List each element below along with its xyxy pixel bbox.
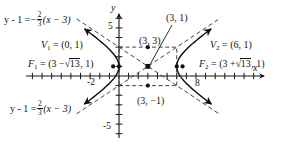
focus-left-prefix: = (3 − [40,58,65,69]
x-tick-label-neg2: -2 [87,78,95,88]
focus-right-radicand: 13 [240,58,251,69]
asymptote-lower-lhs: y - 1 = [10,103,36,114]
point-focus-right [180,64,184,68]
vertex-right-value: = (6, 1) [222,39,252,50]
point-center [145,64,150,69]
asymptote-upper-lhs: y - 1 = [4,14,30,25]
focus-left-label: F1 = (3 −√13, 1) [28,58,94,71]
asymptote-label-lower-left: y - 1 =23(x − 3) [10,100,71,116]
focus-left-radical: √13 [65,58,81,69]
vertex-right-label: V2 = (6, 1) [210,40,252,52]
focus-right-radical: √13 [236,58,252,69]
x-tick-label-8: 8 [195,79,200,89]
asymptote-upper-rhs: (x − 3) [43,14,71,25]
point-vertex-right [175,64,179,68]
focus-left-suffix: , 1) [80,58,93,69]
vertex-left-subscript: 1 [47,44,51,52]
x-axis-label: x [253,63,257,73]
y-axis-label: y [111,3,115,13]
y-tick-label-neg5: -5 [103,122,111,132]
vertex-left-label: V1 = (0, 1) [41,40,83,52]
asymptote-lower-numerator: 2 [37,100,43,108]
focus-right-prefix: = (3 + [211,58,236,69]
focus-left-radicand: 13 [69,58,80,69]
asymptote-upper-numerator: 2 [37,11,43,19]
focus-left-subscript: 1 [34,63,38,71]
asymptote-label-upper-left: y - 1 =−23(x − 3) [4,11,71,27]
y-tick-label-5: 5 [108,22,113,32]
vertex-right-subscript: 2 [216,44,220,52]
hyperbola-branch [177,66,211,104]
asymptote-upper-sign: − [30,14,36,25]
asymptote-upper-denominator: 3 [37,19,43,28]
coordinate-axes [26,14,264,138]
hyperbola-figure: y - 1 =−23(x − 3) y - 1 =23(x − 3) V1 = … [0,0,290,150]
asymptote-upper-fraction: 23 [37,11,43,27]
focus-right-subscript: 2 [205,63,209,71]
asymptote-lower-rhs: (x − 3) [43,103,71,114]
vertex-left-value: = (0, 1) [53,39,83,50]
asymptote-lower-denominator: 3 [37,108,43,117]
point-focus-left [111,64,115,68]
co-vertex-lower-label: (3, −1) [137,96,164,106]
co-vertex-upper-label: (3, 3) [139,36,161,46]
point-vertex-left [117,64,121,68]
asymptote-lower-fraction: 23 [37,100,43,116]
center-point-label: (3, 1) [166,13,188,23]
point-co-vertex-lower [146,84,150,88]
